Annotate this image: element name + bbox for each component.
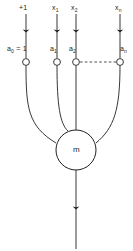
- weight-label-x1: a1: [50, 45, 57, 52]
- input-label-x2-sub: 2: [75, 7, 78, 13]
- weight-label-bias-sub: 0: [11, 48, 14, 54]
- input-label-xn: xn: [115, 4, 122, 11]
- weight-label-xn: an: [120, 45, 127, 52]
- diagram-canvas: [0, 0, 133, 251]
- input-label-x1-sub: 1: [56, 7, 59, 13]
- weight-node-x1[interactable]: [54, 59, 61, 66]
- weight-label-bias: a0 = 1: [7, 45, 27, 52]
- weight-node-bias[interactable]: [23, 59, 30, 66]
- weight-path-xn: [96, 66, 120, 143]
- input-label-bias: +1: [19, 4, 27, 11]
- input-label-x1: x1: [52, 4, 59, 11]
- summing-node-label: m: [73, 146, 80, 154]
- input-label-xn-sub: n: [119, 7, 122, 13]
- weight-node-xn[interactable]: [117, 59, 124, 66]
- weight-label-x1-sub: 1: [54, 48, 57, 54]
- input-label-x2: x2: [71, 4, 78, 11]
- weight-label-x2: a2: [69, 45, 76, 52]
- weight-path-bias: [26, 66, 56, 143]
- weight-label-x2-sub: 2: [73, 48, 76, 54]
- weight-node-x2[interactable]: [73, 59, 80, 66]
- perceptron-diagram: +1 x1 x2 xn a0 = 1 a1 a2 an m: [0, 0, 133, 251]
- weight-path-x1: [57, 66, 68, 131]
- weight-label-bias-suffix: = 1: [14, 45, 27, 52]
- weight-label-xn-sub: n: [124, 48, 127, 54]
